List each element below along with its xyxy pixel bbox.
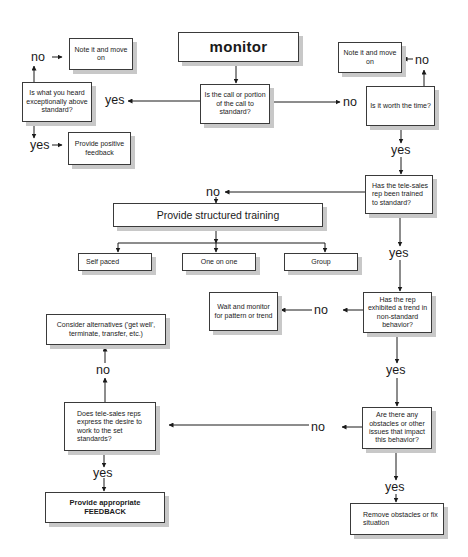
note-and-move-on-left-box: Note it and move on <box>69 38 133 70</box>
remove-obstacles-box: Remove obstacles or fix situation <box>350 503 444 535</box>
edge-label-yes: yes <box>385 481 404 494</box>
edge-label-no: no <box>96 364 110 377</box>
obstacles-decision: Are there any obstacles or other issues … <box>362 407 432 449</box>
one-on-one-box: One on one <box>182 253 256 271</box>
consider-alternatives-box: Consider alternatives ('get well', termi… <box>46 314 166 345</box>
edge-label-yes: yes <box>389 247 408 260</box>
monitor-start-box: monitor <box>178 32 299 62</box>
appropriate-feedback-box: Provide appropriate FEEDBACK <box>45 492 165 523</box>
above-standard-decision: Is what you heard exceptionally above st… <box>22 82 92 122</box>
edge-label-no: no <box>31 51 45 64</box>
trained-to-standard-decision: Has the tele-sales rep been trained to s… <box>365 175 433 214</box>
call-to-standard-decision: Is the call or portion of the call to st… <box>200 84 270 124</box>
structured-training-box: Provide structured training <box>113 203 323 227</box>
desire-to-work-decision: Does tele-sales reps express the desire … <box>64 402 156 451</box>
trend-decision: Has the rep exhibited a trend in non-sta… <box>363 292 432 333</box>
edge-label-no: no <box>206 186 220 199</box>
edge-label-yes: yes <box>105 94 124 107</box>
edge-label-no: no <box>415 54 429 67</box>
edge-label-yes: yes <box>386 364 405 377</box>
edge-label-no: no <box>311 421 325 434</box>
edge-label-yes: yes <box>93 467 112 480</box>
edge-label-no: no <box>314 304 328 317</box>
edge-label-yes: yes <box>30 139 49 152</box>
group-box: Group <box>284 253 358 271</box>
self-paced-box: Self paced <box>78 253 152 271</box>
edge-label-no: no <box>343 96 357 109</box>
positive-feedback-box: Provide positive feedback <box>68 132 131 165</box>
note-and-move-on-right-box: Note it and move on <box>338 42 402 73</box>
edge-label-yes: yes <box>391 144 410 157</box>
flowchart-canvas: monitor Is the call or portion of the ca… <box>0 0 468 557</box>
wait-and-monitor-box: Wait and monitor for pattern or trend <box>209 292 278 331</box>
worth-the-time-decision: Is it worth the time? <box>366 86 435 126</box>
